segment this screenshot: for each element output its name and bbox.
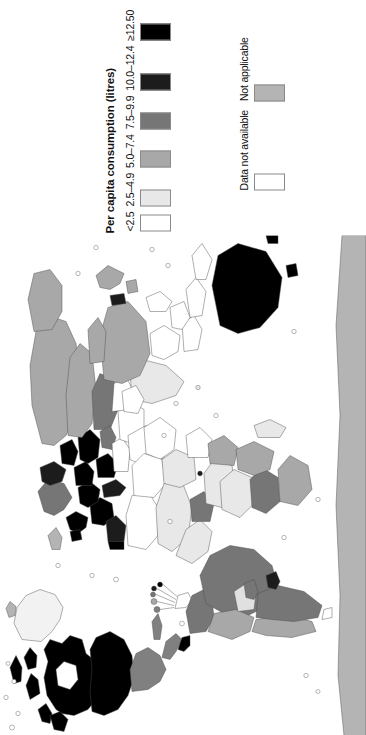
region-antarctica — [336, 235, 366, 735]
legend-scale-label-5: ≥12.50 — [124, 9, 137, 40]
legend-extra-group: Data not available Not applicable — [238, 28, 285, 190]
legend-scale-item-2: 5.0–7.4 — [124, 134, 171, 168]
legend-scale-label-1: 2.5–4.9 — [124, 172, 137, 206]
legend-scale-item-0: <2.5 — [124, 211, 171, 231]
region-morocco-algeria — [126, 491, 158, 549]
legend-scale-item-3: 7.5–9.9 — [124, 95, 171, 129]
region-portugal — [108, 541, 124, 549]
legend-scale-item-4: 10.0–12.4 — [124, 45, 171, 90]
legend-title: Per capita consumption (litres) — [104, 67, 116, 233]
map-legend: Per capita consumption (litres) <2.5 2.5… — [0, 0, 366, 233]
region-new-zealand-north — [266, 235, 278, 243]
legend-scale-label-3: 7.5–9.9 — [124, 95, 137, 129]
figure-canvas: Per capita consumption (litres) <2.5 2.5… — [0, 0, 366, 735]
legend-scale-item-1: 2.5–4.9 — [124, 172, 171, 206]
legend-extra-swatch-not-applicable — [254, 84, 285, 101]
legend-scale-label-0: <2.5 — [124, 211, 137, 231]
region-japan-south — [126, 279, 138, 293]
world-choropleth-map — [0, 235, 366, 735]
legend-scale-swatch-4 — [140, 73, 171, 90]
legend-extra-item-0: Data not available — [238, 110, 285, 190]
legend-scale-label-2: 5.0–7.4 — [124, 134, 137, 168]
legend-extra-item-1: Not applicable — [238, 37, 285, 101]
legend-extra-label-not-applicable: Not applicable — [238, 37, 251, 101]
legend-scale-swatch-1 — [140, 189, 171, 206]
legend-extra-swatch-data-not-available — [254, 173, 285, 190]
legend-scale-swatch-2 — [140, 150, 171, 167]
legend-scale-swatch-0 — [140, 214, 171, 231]
legend-scale-item-5: ≥12.50 — [124, 9, 171, 40]
region-tasmania — [286, 263, 298, 277]
legend-scale-group: <2.5 2.5–4.9 5.0–7.4 7.5–9.9 10.0–12.4 ≥ — [124, 4, 171, 231]
legend-scale-swatch-5 — [140, 23, 171, 40]
legend-scale-label-4: 10.0–12.4 — [124, 45, 137, 90]
legend-scale-swatch-3 — [140, 112, 171, 129]
legend-extra-label-data-not-available: Data not available — [238, 110, 251, 190]
map-svg — [0, 235, 366, 735]
